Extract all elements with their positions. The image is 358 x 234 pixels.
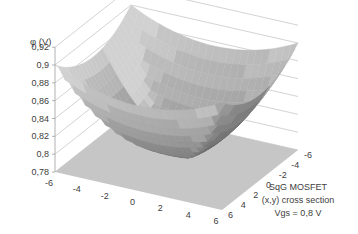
annotation-line-1: SqG MOSFET: [269, 182, 328, 192]
y-tick-label: 6: [228, 210, 233, 220]
z-tick-label: 0,88: [31, 78, 49, 88]
y-tick-label: 2: [253, 190, 258, 200]
annotation-line-2: (x,y) cross section: [262, 195, 335, 205]
z-tick-label: 0,78: [31, 167, 49, 177]
x-tick-label: 4: [186, 210, 191, 220]
y-tick-label: -6: [304, 150, 312, 160]
x-tick-label: 6: [213, 216, 218, 226]
x-tick-label: -4: [73, 184, 81, 194]
y-tick-label: -4: [291, 160, 299, 170]
surface-chart: 0,780,80,820,840,860,880,90,92 -6-4-2024…: [0, 0, 358, 234]
x-tick-label: -2: [101, 191, 109, 201]
x-tick-label: 2: [158, 203, 163, 213]
z-tick-label: 0,82: [31, 131, 49, 141]
z-tick-label: 0,9: [36, 60, 49, 70]
x-tick-label: -6: [45, 178, 53, 188]
surface-mesh: [55, 5, 298, 158]
annotation-line-3: Vgs = 0,8 V: [275, 208, 322, 218]
z-tick-label: 0,84: [31, 114, 49, 124]
x-tick-label: 0: [130, 197, 135, 207]
y-tick-label: 4: [241, 200, 246, 210]
y-tick-label: -2: [279, 170, 287, 180]
z-axis-title: φ (V): [30, 36, 51, 47]
z-tick-label: 0,8: [36, 149, 49, 159]
z-tick-label: 0,86: [31, 96, 49, 106]
z-axis-ticks: 0,780,80,820,840,860,880,90,92: [31, 42, 55, 177]
